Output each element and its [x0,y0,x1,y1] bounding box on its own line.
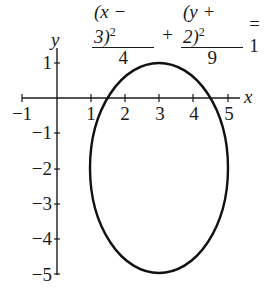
y-tick-label: −4 [32,228,53,249]
x-tick-label: −1 [12,103,32,124]
y-tick-label: −2 [32,158,52,179]
y-tick-label: −1 [32,122,52,143]
ellipse-plot: x y −1 1 2 3 4 5 1 −1 −2 −3 −4 −5 [0,0,274,298]
y-tick-label: −5 [32,264,52,285]
x-tick-label: 5 [224,103,234,124]
y-tick-label: 1 [43,52,53,73]
x-tick-label: 3 [155,103,165,124]
y-tick-label: −3 [32,193,52,214]
x-tick-label: 1 [86,103,96,124]
x-tick-label: 2 [120,103,130,124]
y-axis-label: y [49,29,60,50]
x-axis-label: x [243,86,253,107]
x-tick-label: 4 [189,103,199,124]
